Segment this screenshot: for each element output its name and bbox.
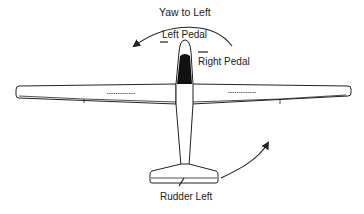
glider-yaw-diagram: Yaw to Left Left Pedal Right Pedal Rudde…: [0, 0, 364, 214]
rudder-label: Rudder Left: [160, 192, 212, 202]
right-pedal-label: Right Pedal: [198, 57, 250, 67]
fuselage: [176, 40, 193, 166]
tail-stabilizer: [150, 164, 218, 186]
left-wing: [16, 84, 176, 104]
rudder-arrow-icon: [221, 143, 268, 178]
right-wing: [192, 84, 351, 104]
left-pedal-label: Left Pedal: [162, 30, 207, 40]
yaw-title: Yaw to Left: [159, 7, 211, 18]
